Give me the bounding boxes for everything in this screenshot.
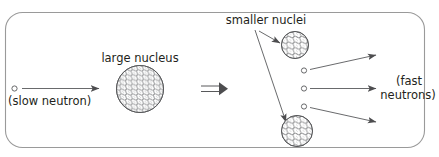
fast-neutron-3 bbox=[301, 104, 306, 109]
smaller-nuclei-label: smaller nuclei bbox=[218, 14, 314, 28]
fast-neutron-1 bbox=[301, 68, 306, 73]
smaller-nuclei-leader-upper bbox=[259, 31, 280, 43]
implies-arrow bbox=[201, 82, 228, 95]
smaller-nucleus-upper bbox=[280, 30, 311, 61]
diagram-border bbox=[6, 13, 425, 148]
fast-neutrons-label-line1: (fast bbox=[380, 75, 438, 89]
fast-neutron-arrow-3 bbox=[310, 108, 376, 123]
slow-neutron-label: (slow neutron) bbox=[8, 95, 91, 109]
slow-neutron-particle bbox=[12, 86, 17, 91]
large-nucleus-label: large nucleus bbox=[100, 52, 180, 66]
fast-neutron-2 bbox=[301, 86, 306, 91]
large-nucleus-circle bbox=[114, 63, 166, 115]
fast-neutrons-label-line2: neutrons) bbox=[377, 89, 439, 103]
nuclear-fission-diagram: (slow neutron) large nucleus smaller nuc… bbox=[0, 0, 439, 157]
fast-neutron-arrow-1 bbox=[310, 55, 376, 70]
